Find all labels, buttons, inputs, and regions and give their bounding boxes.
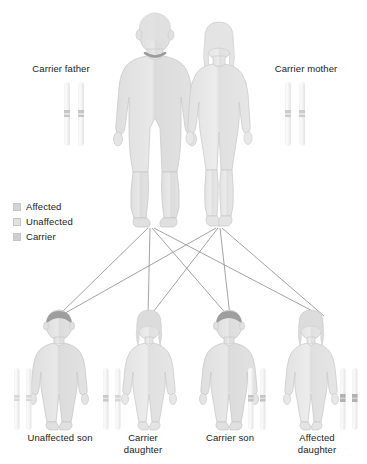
- legend-item-carrier: Carrier: [13, 229, 111, 244]
- chromosome: [78, 82, 84, 146]
- child3-ear-right: [240, 322, 245, 330]
- chromosome: [248, 368, 254, 430]
- father-foot-left: [133, 218, 150, 227]
- chromosome-centromere: [103, 398, 109, 400]
- line-father-to-child4: [154, 228, 322, 316]
- figure-carrier-father: [114, 13, 197, 227]
- chromosome-centromere: [64, 113, 70, 115]
- chromosome: [103, 368, 109, 430]
- label-carrier-father: Carrier father: [14, 63, 108, 75]
- legend-label-carrier: Carrier: [26, 231, 56, 242]
- label-unaffected-son: Unaffected son: [6, 432, 114, 444]
- chromosome-pair-mother: [285, 82, 305, 146]
- chromosome: [26, 368, 32, 430]
- chromosome: [340, 368, 346, 430]
- mother-neck: [213, 56, 225, 66]
- chromosome-centromere: [352, 398, 358, 400]
- line-father-to-child3: [152, 228, 228, 316]
- chromosome: [14, 368, 20, 430]
- child4-hand-right: [332, 394, 339, 405]
- legend-label-unaffected: Unaffected: [26, 216, 73, 227]
- mother-hand-left: [186, 132, 194, 145]
- figure-carrier-daughter: [122, 310, 177, 430]
- chromosome: [352, 368, 358, 430]
- father-foot-right: [160, 218, 177, 227]
- legend-label-affected: Affected: [26, 201, 61, 212]
- child3-foot-right: [229, 422, 242, 430]
- chromosome-centromere: [115, 398, 121, 400]
- child4-neck: [307, 337, 315, 344]
- chromosome: [260, 368, 266, 430]
- child3-neck: [224, 337, 234, 344]
- child1-foot-right: [59, 422, 72, 430]
- child2-foot-left: [138, 422, 149, 430]
- figure-unaffected-son: [30, 310, 89, 430]
- child1-ear-left: [44, 322, 49, 330]
- figure-carrier-mother: [186, 22, 252, 226]
- child2-foot-right: [149, 422, 160, 430]
- chromosome-centromere: [340, 398, 346, 400]
- legend-item-affected: Affected: [13, 199, 111, 214]
- father-leg-left: [131, 172, 149, 218]
- chromosome: [285, 82, 291, 146]
- legend-item-unaffected: Unaffected: [13, 214, 111, 229]
- father-ear-left: [136, 30, 142, 40]
- chromosome-centromere: [285, 113, 291, 115]
- chromosome-centromere: [248, 398, 254, 400]
- mother-foot-right: [218, 216, 232, 226]
- mother-hand-right: [244, 132, 252, 145]
- chromosome-pair-child2: [103, 368, 121, 430]
- chromosome-pair-child1: [14, 368, 32, 430]
- child1-foot-left: [46, 422, 59, 430]
- chromosome-centromere: [299, 113, 305, 115]
- label-carrier-mother: Carrier mother: [258, 63, 354, 75]
- father-ear-right: [168, 30, 174, 40]
- father-hand-left: [114, 132, 123, 146]
- chromosome-pair-child4: [340, 368, 358, 430]
- child2-neck: [145, 337, 153, 344]
- child4-foot-right: [311, 422, 322, 430]
- chromosome-centromere: [26, 398, 32, 400]
- figure-affected-daughter: [284, 310, 339, 430]
- child1-hand-right: [82, 394, 89, 405]
- line-father-to-child2: [148, 228, 150, 316]
- line-mother-to-child3: [220, 228, 230, 316]
- father-hair: [139, 13, 171, 41]
- child3-foot-left: [216, 422, 229, 430]
- legend-swatch-affected-icon: [13, 203, 21, 211]
- chromosome: [115, 368, 121, 430]
- child1-ear-right: [70, 322, 75, 330]
- child4-foot-left: [300, 422, 311, 430]
- child2-hand-left: [122, 394, 129, 405]
- mother-leg-left: [205, 170, 219, 216]
- label-affected-daughter: Affected daughter: [274, 432, 360, 455]
- child3-hand-left: [200, 394, 207, 405]
- label-carrier-daughter: Carrier daughter: [106, 432, 180, 455]
- chromosome-centromere: [78, 113, 84, 115]
- label-carrier-son: Carrier son: [186, 432, 274, 444]
- mother-leg-right: [220, 170, 234, 216]
- chromosome-pair-father: [64, 82, 84, 146]
- legend-swatch-unaffected-icon: [13, 218, 21, 226]
- legend-swatch-carrier-icon: [13, 233, 21, 241]
- chromosome: [64, 82, 70, 146]
- chromosome-centromere: [260, 398, 266, 400]
- line-mother-to-child2: [150, 228, 218, 316]
- chromosome-centromere: [14, 398, 20, 400]
- chromosome: [299, 82, 305, 146]
- child1-neck: [54, 337, 64, 344]
- legend: Affected Unaffected Carrier: [13, 199, 111, 244]
- child3-ear-left: [214, 322, 219, 330]
- father-leg-right: [162, 172, 180, 218]
- child2-hand-right: [170, 394, 177, 405]
- child4-hand-left: [284, 394, 291, 405]
